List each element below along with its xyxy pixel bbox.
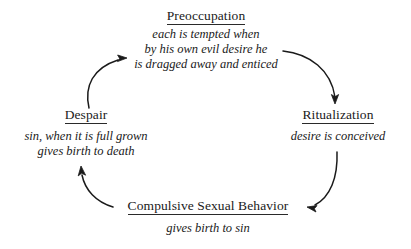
node-compulsive-sexual-behavior-body: gives birth to sin bbox=[108, 221, 308, 236]
node-ritualization: Ritualization desire is conceived bbox=[268, 105, 408, 144]
node-preoccupation-line-3: is dragged away and enticed bbox=[110, 57, 302, 72]
node-ritualization-body: desire is conceived bbox=[268, 129, 408, 144]
node-compulsive-sexual-behavior-line-1: gives birth to sin bbox=[108, 221, 308, 236]
node-preoccupation: Preoccupation each is tempted when by hi… bbox=[110, 6, 302, 72]
node-preoccupation-line-1: each is tempted when bbox=[110, 27, 302, 42]
node-compulsive-sexual-behavior: Compulsive Sexual Behavior gives birth t… bbox=[108, 196, 308, 236]
node-preoccupation-body: each is tempted when by his own evil des… bbox=[110, 27, 302, 72]
node-ritualization-title: Ritualization bbox=[302, 107, 373, 124]
node-compulsive-sexual-behavior-title: Compulsive Sexual Behavior bbox=[128, 198, 289, 215]
node-despair-line-2: gives birth to death bbox=[2, 144, 170, 159]
cycle-diagram: Preoccupation each is tempted when by hi… bbox=[0, 0, 411, 249]
node-despair-title: Despair bbox=[65, 107, 108, 124]
arrow-ritualization-to-compulsive bbox=[307, 152, 337, 212]
node-preoccupation-title: Preoccupation bbox=[167, 8, 246, 25]
node-preoccupation-line-2: by his own evil desire he bbox=[110, 42, 302, 57]
node-despair-line-1: sin, when it is full grown bbox=[2, 129, 170, 144]
node-despair: Despair sin, when it is full grown gives… bbox=[2, 105, 170, 159]
node-despair-body: sin, when it is full grown gives birth t… bbox=[2, 129, 170, 159]
node-ritualization-line-1: desire is conceived bbox=[268, 129, 408, 144]
